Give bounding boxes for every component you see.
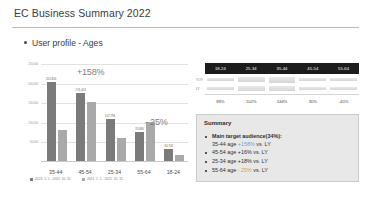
bar-group: 30,741: [162, 64, 184, 161]
table-percent-cell: 144%: [267, 95, 298, 107]
table-column-header: 18-24: [205, 63, 236, 74]
bar: [58, 130, 67, 161]
section-heading: User profile - Ages: [24, 38, 103, 48]
y-axis-tick-label: 200,000: [28, 82, 38, 86]
bar: 201,801: [47, 82, 56, 161]
table-percent-cell: -40%: [328, 95, 359, 107]
chart-annotation-1: +158%: [77, 67, 104, 77]
summary-item-text: 25-34 age: [212, 158, 238, 164]
title-divider: [12, 27, 359, 28]
bar: 30,741: [164, 149, 173, 161]
legend-swatch: [30, 178, 33, 181]
table-percent-cell: 102%: [236, 95, 267, 107]
chart-legend: 2022. 1. 1 - 2022. 10. 312021. 1. 1 - 20…: [30, 177, 123, 181]
table-row: LY: [196, 84, 359, 93]
bar: 174,403: [76, 93, 85, 161]
x-axis-tick-label: 45-54: [73, 169, 97, 175]
cell-bar: [207, 78, 234, 81]
summary-list-item: 55-64 age - 25% vs. LY: [204, 167, 354, 175]
table-cell: [328, 75, 359, 84]
bar-group: 201,801: [45, 64, 67, 161]
y-axis-tick-label: 50,000: [30, 140, 38, 144]
table-percent-cell: 30%: [297, 95, 328, 107]
x-axis-tick-label: 25-34: [103, 169, 127, 175]
chart-annotation-2: - 25%: [145, 117, 168, 127]
table-header-row: 18-2425-3435-4445-5455-64: [205, 63, 359, 74]
cell-bar: [207, 87, 234, 90]
bar-value-label: 174,403: [75, 88, 85, 92]
bar-value-label: 201,801: [46, 77, 56, 81]
table-column-header: 25-34: [236, 63, 267, 74]
summary-item-text: 55-64 age: [212, 167, 238, 173]
chart-plot-area: 201,801174,403107,79474,84630,741 250,00…: [41, 64, 188, 162]
bar-group: 74,846: [133, 64, 155, 161]
age-bar-chart: 201,801174,403107,79474,84630,741 250,00…: [22, 60, 190, 182]
table-row: YOY: [196, 75, 359, 84]
summary-item-text: 35-44 age: [212, 141, 238, 147]
table-column-header: 45-54: [297, 63, 328, 74]
summary-item-text: vs. LY: [255, 141, 271, 147]
cell-bar: [269, 77, 296, 83]
bar: [146, 122, 155, 161]
summary-item-subline: 35-44 age +158% vs. LY: [212, 141, 354, 149]
chart-axis-line: [41, 161, 188, 162]
summary-item-percent: +158%: [238, 141, 255, 147]
bar: 74,846: [135, 132, 144, 161]
x-axis-tick-label: 18-24: [161, 169, 185, 175]
summary-item-percent: +18%: [238, 158, 252, 164]
y-axis-tick-label: 150,000: [28, 101, 38, 105]
summary-item-text: Main target audience(34%):: [212, 133, 282, 139]
table-percent-cell: 89%: [205, 95, 236, 107]
table-row-label-yoy: YOY: [196, 78, 205, 82]
cell-bar: [238, 77, 265, 81]
y-axis-tick-label: 250,000: [28, 62, 38, 66]
legend-label: 2021. 1. 1 - 2021. 10. 31: [87, 177, 123, 181]
legend-swatch: [82, 178, 85, 181]
table-column-header: 35-44: [267, 63, 298, 74]
bar-group: 174,403: [74, 64, 96, 161]
table-cell: [328, 84, 359, 93]
cell-bar: [330, 87, 357, 90]
table-column-header: 55-64: [328, 63, 359, 74]
y-axis-tick-label: 100,000: [28, 121, 38, 125]
bar: 107,794: [106, 119, 115, 161]
x-axis-tick-label: 55-64: [132, 169, 156, 175]
table-cell: [236, 84, 267, 93]
summary-item-text: vs. LY: [252, 149, 268, 155]
summary-item-percent: +16%: [238, 149, 252, 155]
legend-item: 2022. 1. 1 - 2022. 10. 31: [30, 177, 71, 181]
summary-list-item: Main target audience(34%):35-44 age +158…: [204, 133, 354, 148]
cell-bar: [269, 86, 296, 90]
bar-value-label: 30,741: [164, 144, 173, 148]
page-title: EC Business Summary 2022: [14, 7, 151, 19]
bullet-dot-icon: [205, 161, 207, 163]
slide-title-bar: EC Business Summary 2022: [0, 0, 371, 28]
slide-canvas: EC Business Summary 2022 User profile - …: [0, 0, 371, 204]
table-cell: [205, 75, 236, 84]
summary-item-text: 45-54 age: [212, 149, 238, 155]
bullet-dot-icon: [205, 136, 207, 138]
bullet-dot-icon: [205, 170, 207, 172]
cell-bar: [238, 86, 265, 90]
cell-bar: [299, 78, 326, 81]
legend-label: 2022. 1. 1 - 2022. 10. 31: [35, 177, 71, 181]
x-axis-tick-label: 35-44: [44, 169, 68, 175]
age-metrics-table: 18-2425-3435-4445-5455-64 YOY LY 89%102%…: [196, 63, 359, 108]
summary-item-text: vs. LY: [252, 167, 268, 173]
table-cell: [267, 84, 298, 93]
table-cell: [297, 84, 328, 93]
table-cell: [236, 75, 267, 84]
table-row-cells-yoy: [205, 75, 359, 84]
table-cell: [297, 75, 328, 84]
summary-list-item: 25-34 age +18% vs. LY: [204, 158, 354, 166]
summary-list-item: 45-54 age +16% vs. LY: [204, 149, 354, 157]
cell-bar: [299, 87, 326, 91]
bullet-dot-icon: [24, 41, 27, 44]
bar-value-label: 74,846: [135, 127, 144, 131]
table-percent-row: 89%102%144%30%-40%: [205, 94, 359, 107]
legend-item: 2021. 1. 1 - 2021. 10. 31: [82, 177, 123, 181]
bullet-dot-icon: [205, 152, 207, 154]
summary-box: Summary Main target audience(34%):35-44 …: [196, 114, 359, 182]
bar-group: 107,794: [104, 64, 126, 161]
table-row-label-ly: LY: [196, 87, 205, 91]
